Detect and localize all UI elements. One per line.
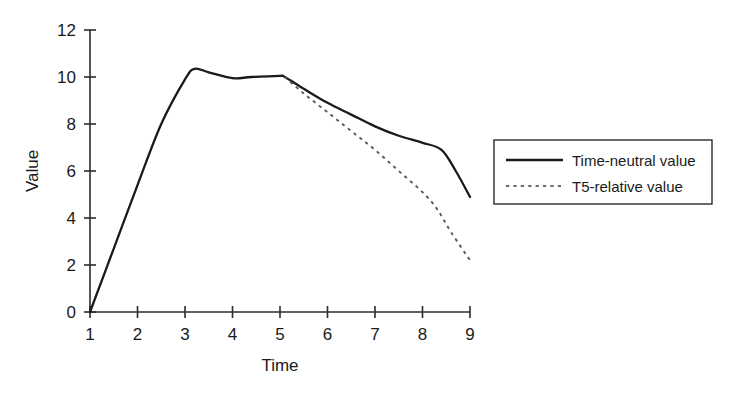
legend-label-0: Time-neutral value <box>572 152 696 169</box>
x-tick-label: 3 <box>180 325 189 344</box>
y-axis-title: Value <box>23 150 42 192</box>
y-tick-label: 4 <box>67 209 76 228</box>
x-axis-title: Time <box>261 356 298 375</box>
axes-group <box>90 30 470 312</box>
series-time-neutral-value <box>90 69 470 312</box>
x-tick-label: 5 <box>275 325 284 344</box>
x-tick-label: 8 <box>418 325 427 344</box>
y-tick-label: 6 <box>67 162 76 181</box>
y-tick-label: 2 <box>67 256 76 275</box>
x-tick-label: 2 <box>133 325 142 344</box>
x-tick-label: 6 <box>323 325 332 344</box>
legend-label-1: T5-relative value <box>572 178 683 195</box>
series-t5-relative-value <box>285 77 470 260</box>
y-tick-label: 8 <box>67 115 76 134</box>
x-tick-label: 7 <box>370 325 379 344</box>
series-group <box>90 69 470 312</box>
x-tick-label: 1 <box>85 325 94 344</box>
y-tick-label: 0 <box>67 303 76 322</box>
y-tick-label: 12 <box>57 21 76 40</box>
x-tick-label: 4 <box>228 325 237 344</box>
x-tick-label: 9 <box>465 325 474 344</box>
y-tick-label: 10 <box>57 68 76 87</box>
chart-figure: 024681012 123456789 Value Time Time-neut… <box>0 0 750 398</box>
chart-legend: Time-neutral value T5-relative value <box>494 140 712 204</box>
